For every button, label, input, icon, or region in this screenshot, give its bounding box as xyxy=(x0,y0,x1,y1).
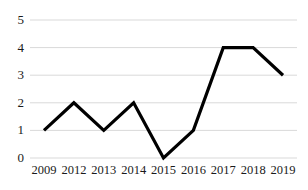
y-axis-tick-label: 4 xyxy=(8,41,24,54)
y-axis-tick-label: 5 xyxy=(8,13,24,26)
x-axis-tick-label: 2015 xyxy=(151,164,176,177)
x-axis-tick-label: 2013 xyxy=(91,164,116,177)
x-axis-tick-label: 2019 xyxy=(271,164,296,177)
line-chart: 012345 200920122013201420152016201720182… xyxy=(0,0,308,190)
y-axis-tick-label: 1 xyxy=(8,123,24,136)
x-axis-tick-label: 2017 xyxy=(211,164,236,177)
x-axis-tick-label: 2012 xyxy=(61,164,86,177)
x-axis-tick-label: 2018 xyxy=(241,164,266,177)
x-axis-tick-label: 2009 xyxy=(32,164,57,177)
y-axis-tick-label: 2 xyxy=(8,96,24,109)
chart-canvas xyxy=(0,0,308,190)
x-axis-tick-label: 2014 xyxy=(121,164,146,177)
y-axis-tick-label: 0 xyxy=(8,151,24,164)
x-axis-tick-label: 2016 xyxy=(181,164,206,177)
gridlines xyxy=(30,20,297,158)
y-axis-tick-label: 3 xyxy=(8,68,24,81)
